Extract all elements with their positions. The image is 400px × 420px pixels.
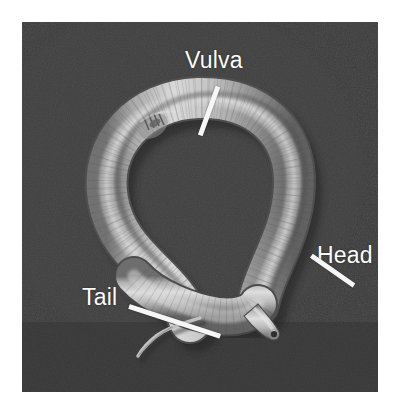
- mouth-opening: [271, 331, 277, 337]
- micrograph-plate: Vulva Head Tail: [22, 22, 378, 392]
- annotation-label-tail: Tail: [82, 286, 117, 309]
- micrograph-image: [22, 22, 378, 392]
- figure-container: Vulva Head Tail: [0, 0, 400, 420]
- annotation-label-vulva: Vulva: [185, 49, 243, 72]
